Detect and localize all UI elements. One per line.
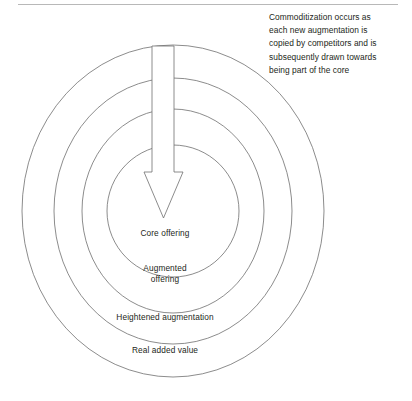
annotation-line-1: Commoditization occurs as (269, 11, 409, 24)
commoditization-annotation: Commoditization occurs as each new augme… (269, 11, 409, 77)
ring-label-core-offering: Core offering (0, 228, 330, 239)
diagram-page: Core offering Augmented offering Heighte… (0, 0, 412, 401)
ring-label-augmented-line2: offering (151, 274, 179, 284)
annotation-line-4: subsequently drawn towards (269, 51, 409, 64)
ring-label-heightened-augmentation: Heightened augmentation (0, 312, 330, 323)
ring-label-real-added-value: Real added value (0, 345, 330, 356)
annotation-line-5: being part of the core (269, 64, 409, 77)
ring-label-augmented-offering: Augmented offering (0, 263, 330, 285)
commoditization-arrow-icon (144, 46, 183, 218)
annotation-line-2: each new augmentation is (269, 24, 409, 37)
ring-label-augmented-line1: Augmented (143, 263, 186, 273)
annotation-line-3: copied by competitors and is (269, 37, 409, 50)
